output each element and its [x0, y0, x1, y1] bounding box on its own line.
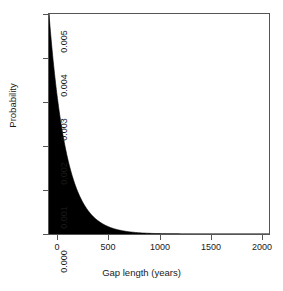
y-tick-0.002 — [43, 146, 48, 147]
y-tick-0.003 — [43, 102, 48, 103]
y-tick-0.001 — [43, 190, 48, 191]
y-tick-label-0.001: 0.001 — [59, 184, 69, 207]
y-tick-label-0.004: 0.004 — [59, 52, 69, 75]
y-tick-label-0.000: 0.000 — [59, 228, 69, 251]
y-axis-title: Probability — [7, 56, 18, 156]
y-tick-label-0.003: 0.003 — [59, 96, 69, 119]
chart-figure: 0 500 1000 1500 2000 0.000 0.001 0.002 0… — [0, 0, 283, 291]
x-tick-label-1500: 1500 — [201, 242, 221, 252]
x-tick-1000 — [160, 235, 161, 240]
x-axis-title: Gap length (years) — [0, 267, 283, 278]
exponential-decay-area — [49, 14, 269, 234]
x-tick-1500 — [211, 235, 212, 240]
curve-path — [49, 14, 269, 234]
y-tick-0.000 — [43, 234, 48, 235]
x-tick-label-1000: 1000 — [150, 242, 170, 252]
y-tick-0.005 — [43, 14, 48, 15]
x-tick-label-500: 500 — [100, 242, 115, 252]
x-tick-label-2000: 2000 — [252, 242, 272, 252]
y-tick-label-0.005: 0.005 — [59, 8, 69, 31]
y-tick-0.004 — [43, 58, 48, 59]
y-tick-label-0.002: 0.002 — [59, 140, 69, 163]
x-tick-2000 — [262, 235, 263, 240]
x-tick-500 — [108, 235, 109, 240]
plot-area — [48, 13, 270, 235]
